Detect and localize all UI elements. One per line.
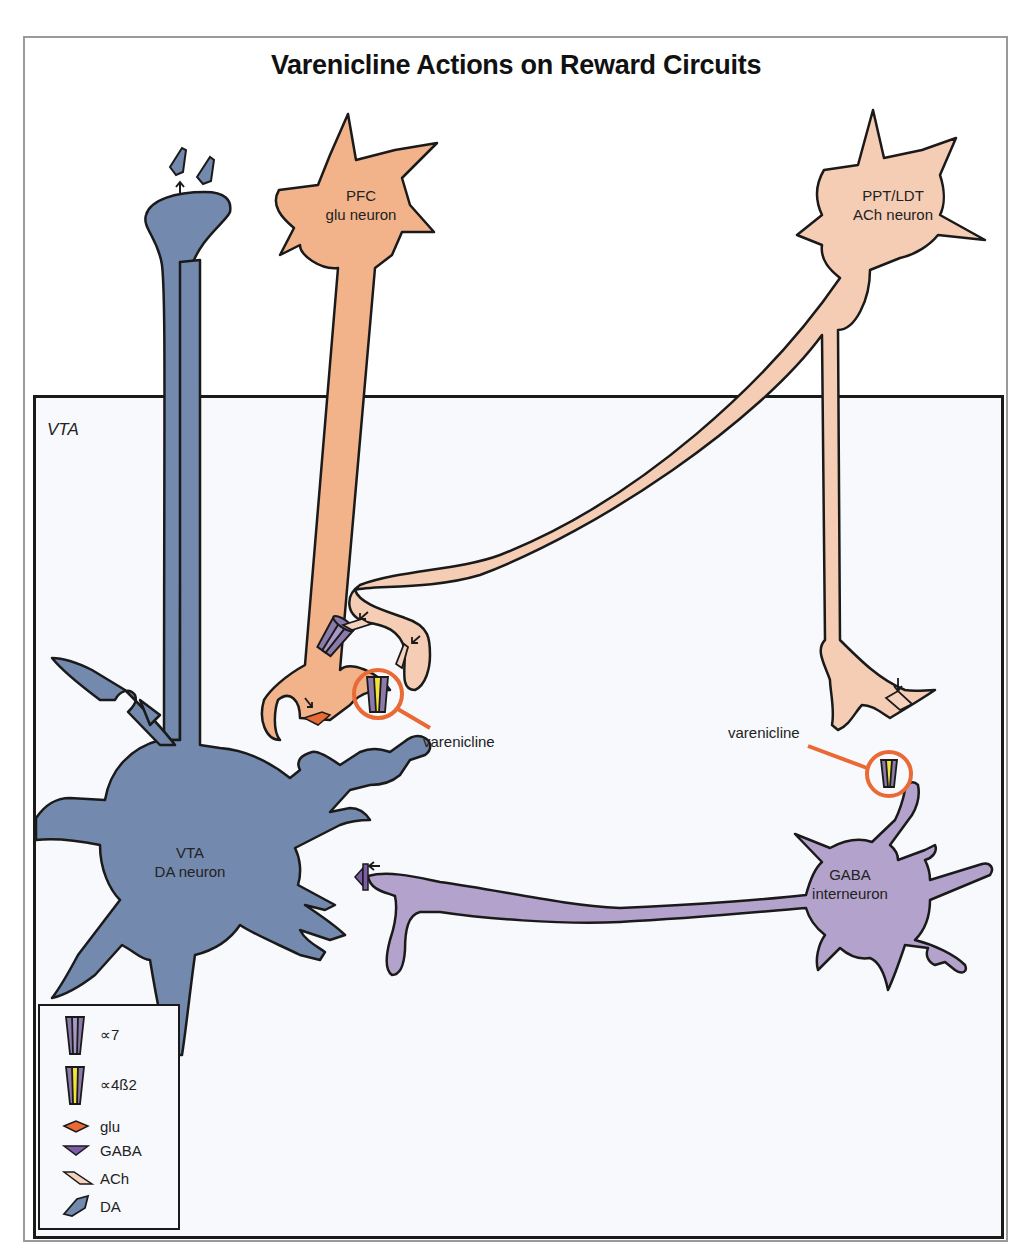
legend-label-da: DA [100,1198,121,1215]
release-arrow-icon [305,612,902,870]
vta-da-neuron [36,260,430,1055]
legend-label-alpha4beta2: ∝4ß2 [100,1076,137,1094]
vta-da-neuron-label: VTA DA neuron [130,843,250,881]
release-arrow-icon [176,182,184,194]
gaba-released-icon [355,864,368,890]
legend-label-gaba: GABA [100,1142,142,1159]
varenicline-label-left: varenicline [423,732,495,751]
varenicline-label-right: varenicline [728,723,800,742]
gaba-interneuron-label: GABA interneuron [800,865,900,903]
pfc-neuron-label: PFC glu neuron [306,186,416,224]
alpha4beta2-receptor-icon [881,760,897,787]
legend-label-alpha7: ∝7 [100,1026,119,1044]
legend-label-glu: glu [100,1118,120,1135]
legend-label-ach: ACh [100,1170,129,1187]
da-released-icon [170,148,214,184]
ppt-ldt-neuron-label: PPT/LDT ACh neuron [838,186,948,224]
varenicline-pointer-right [808,746,867,768]
varenicline-pointer-left [396,708,430,728]
alpha4beta2-receptor-icon [367,677,388,712]
